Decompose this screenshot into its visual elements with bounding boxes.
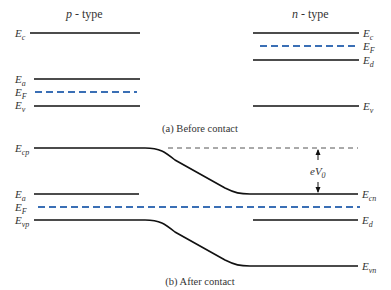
label-Evp: Evp: [14, 214, 29, 229]
valence-band-bent: [34, 220, 358, 266]
label-Ed: Ed: [361, 214, 374, 229]
label-Ed-n: Ed: [362, 54, 375, 69]
label-EF-n: EF: [362, 40, 375, 55]
arrow-down-icon: [316, 187, 321, 193]
label-Ev-n: Ev: [362, 100, 374, 115]
label-Ecp: Ecp: [14, 142, 29, 157]
label-eV0: eV0: [310, 165, 326, 180]
caption-before: (a) Before contact: [162, 123, 238, 135]
caption-after: (b) After contact: [165, 276, 234, 288]
label-Ec-p: Ec: [14, 27, 26, 42]
after-contact: eV0 Ecp Ea EF Evp Ecn Ed Evn: [14, 142, 376, 275]
arrow-up-icon: [316, 149, 321, 155]
p-type-title: p - type: [65, 7, 103, 21]
label-Ecn: Ecn: [361, 188, 376, 203]
before-n-side: Ec EF Ed Ev: [253, 27, 375, 115]
band-diagram: p - type n - type Ec Ea EF Ev Ec EF Ed E…: [0, 0, 391, 290]
n-type-title: n - type: [292, 7, 329, 21]
label-Evn: Evn: [361, 260, 376, 275]
label-Ev-p: Ev: [14, 99, 26, 114]
before-p-side: Ec Ea EF Ev: [14, 27, 140, 114]
